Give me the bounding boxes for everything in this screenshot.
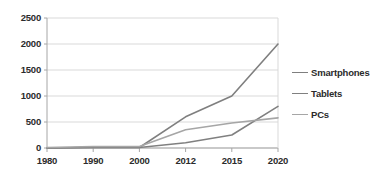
line-chart: 05001000150020002500 1980199020002012201… — [0, 0, 381, 181]
x-axis-tick-label: 2000 — [122, 155, 156, 166]
legend-item[interactable]: Tablets — [292, 83, 381, 104]
legend-line-swatch — [292, 93, 308, 94]
legend-label: Tablets — [311, 88, 342, 99]
x-axis-tick-label: 1990 — [76, 155, 110, 166]
x-axis-tick-label: 2020 — [261, 155, 295, 166]
y-axis-tick-label: 1000 — [7, 90, 41, 101]
legend-label: Smartphones — [311, 67, 370, 78]
legend-line-swatch — [292, 72, 308, 73]
legend-item[interactable]: PCs — [292, 104, 381, 125]
x-tick-marks — [47, 148, 278, 152]
y-axis-tick-label: 1500 — [7, 64, 41, 75]
x-axis-tick-label: 2012 — [169, 155, 203, 166]
legend-item[interactable]: Smartphones — [292, 62, 381, 83]
y-axis-tick-label: 2000 — [7, 38, 41, 49]
y-axis-tick-label: 500 — [7, 116, 41, 127]
legend-line-swatch — [292, 114, 308, 115]
legend-label: PCs — [311, 109, 329, 120]
chart-legend: SmartphonesTabletsPCs — [292, 62, 381, 125]
series-line-tablets — [47, 106, 278, 148]
x-axis-tick-label: 2015 — [215, 155, 249, 166]
x-axis-tick-label: 1980 — [30, 155, 64, 166]
y-axis-tick-label: 0 — [7, 142, 41, 153]
y-axis-tick-label: 2500 — [7, 12, 41, 23]
